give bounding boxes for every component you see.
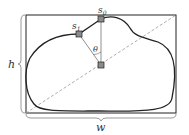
center-marker (98, 62, 104, 68)
width-brace (26, 114, 176, 121)
theta-label: θ (93, 45, 98, 54)
s0-marker (98, 16, 104, 22)
s0-label: s0 (98, 5, 107, 16)
height-brace (18, 15, 25, 113)
bounding-box-diagram: s0 s1 θ h w (0, 0, 189, 135)
width-label: w (96, 121, 106, 134)
height-label: h (8, 58, 15, 71)
s1-label: s1 (72, 21, 80, 32)
